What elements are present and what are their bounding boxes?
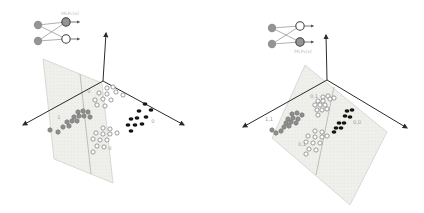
data-point [75,119,79,124]
data-point [105,86,109,90]
axis-up [103,33,106,81]
data-point [342,121,347,125]
cluster-label: 0,1 [298,141,306,147]
data-point [101,126,105,130]
data-point [61,125,65,130]
data-point [318,141,322,145]
data-point [111,85,115,89]
decision-plane-texture [272,65,387,205]
data-point [313,103,317,107]
data-point [109,98,113,102]
data-point [274,131,278,136]
network-label: MLP₂(x) [294,49,312,54]
network-input-node [34,37,42,45]
data-point [287,124,291,129]
data-point [343,114,348,118]
data-point [101,132,105,136]
data-point [126,123,131,127]
data-point [295,111,299,116]
data-point [339,126,344,130]
render-root: MLP₁(x)1000MLP₂(x)1,10,10,00,1 [23,11,407,205]
data-point [103,104,107,108]
data-point [328,97,332,101]
data-point [334,126,339,130]
data-point [313,135,317,139]
data-point [137,109,142,113]
data-point [82,114,86,119]
data-point [91,137,95,141]
data-point [108,132,112,136]
data-point [114,90,118,94]
data-point [101,97,105,101]
data-point [149,108,154,112]
data-point [294,121,298,126]
data-point [102,145,106,149]
data-point [108,127,112,131]
network-label: MLP₁(x) [61,11,79,16]
data-point [316,99,320,103]
data-point [144,115,149,119]
network-input-node [268,40,276,48]
data-point [97,91,101,95]
panel-left: MLP₁(x)1000 [23,11,184,183]
data-point [316,113,320,117]
cluster-label: 0 [108,145,111,151]
data-point [306,134,310,138]
data-point [77,114,81,119]
data-point [129,129,134,133]
data-point [86,110,90,115]
data-point [105,138,109,142]
data-point [88,115,92,120]
data-point [314,148,318,152]
data-point [320,135,324,139]
data-point [270,128,274,133]
network-input-node [34,21,42,29]
data-point [350,108,355,112]
network-output-node [62,18,70,26]
network-output-node [296,22,304,30]
data-point [95,103,99,107]
data-point [321,99,325,103]
data-point [345,109,350,113]
network-output-node [62,35,70,43]
data-point [332,96,336,100]
data-point [70,119,74,124]
data-point [320,108,324,112]
cluster-label: 1,1 [265,116,273,122]
data-point [105,92,109,96]
data-point [135,116,140,120]
data-point [67,124,71,129]
data-point [143,102,148,106]
data-point [300,113,304,118]
data-point [48,128,52,133]
data-point [140,122,145,126]
data-point [318,103,322,107]
cluster-label: 0,1 [310,93,318,99]
data-point [304,152,308,156]
panel-right: MLP₂(x)1,10,10,00,1 [243,22,407,205]
data-point [325,134,329,138]
cluster-label: 0 [151,118,154,124]
data-point [95,144,99,148]
data-point [56,130,60,135]
two-panel-3d-scatter: MLP₁(x)1000MLP₂(x)1,10,10,00,1 [0,0,424,213]
data-point [133,123,138,127]
data-point [129,117,134,121]
cluster-label: 0 [87,88,90,94]
data-point [323,103,327,107]
data-point [320,130,324,134]
data-point [94,131,98,135]
data-point [313,129,317,133]
data-point [332,130,337,134]
data-point [311,141,315,145]
data-point [121,93,125,97]
data-point [348,115,353,119]
network-diagram: MLP₁(x) [34,11,80,45]
data-point [91,150,95,154]
network-input-node [268,24,276,32]
data-point [93,98,97,102]
data-point [98,138,102,142]
cluster-label: 1 [57,114,60,120]
data-point [321,95,325,99]
mlp-decision-planes-figure: MLP₁(x)1000MLP₂(x)1,10,10,00,1 [0,0,424,213]
